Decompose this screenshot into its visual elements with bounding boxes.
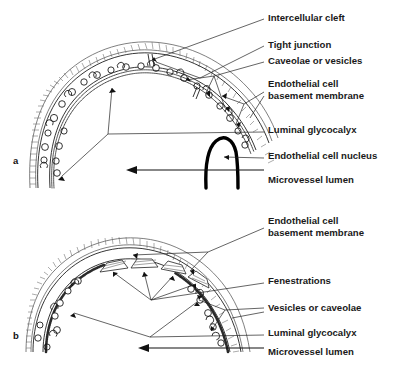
label-vesicles-or-caveolae: Vesicles or caveolae bbox=[268, 302, 361, 313]
label-luminal-glycocalyx-a: Luminal glycocalyx bbox=[268, 124, 357, 135]
label-endothelial-cell-b: Endothelial cell bbox=[268, 215, 338, 226]
panel-label-a: a bbox=[13, 155, 19, 166]
label-tight-junction: Tight junction bbox=[268, 39, 331, 50]
label-basement-membrane-a: basement membrane bbox=[268, 90, 364, 101]
label-fenestrations: Fenestrations bbox=[268, 275, 331, 286]
label-basement-membrane-b: basement membrane bbox=[268, 227, 364, 238]
label-microvessel-lumen-b: Microvessel lumen bbox=[268, 346, 354, 357]
label-caveolae-or-vesicles: Caveolae or vesicles bbox=[268, 55, 362, 66]
microvessel-wall-figure: Intercellular cleft Tight junction Caveo… bbox=[0, 0, 403, 365]
label-luminal-glycocalyx-b: Luminal glycocalyx bbox=[268, 327, 357, 338]
label-microvessel-lumen-a: Microvessel lumen bbox=[268, 174, 354, 185]
label-endothelial-cell-nucleus: Endothelial cell nucleus bbox=[268, 150, 377, 161]
label-endothelial-cell-a: Endothelial cell bbox=[268, 78, 338, 89]
label-intercellular-cleft: Intercellular cleft bbox=[268, 12, 346, 23]
panel-label-b: b bbox=[13, 330, 19, 341]
